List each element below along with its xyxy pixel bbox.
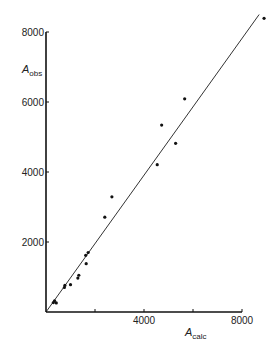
data-point — [174, 142, 177, 145]
y-tick-label: 4000 — [22, 167, 45, 178]
data-point — [63, 284, 66, 287]
y-axis-label: Aobs — [21, 63, 42, 78]
x-axis-label-subscript: calc — [192, 332, 206, 341]
data-point — [69, 283, 72, 286]
data-point — [262, 17, 265, 20]
data-point — [183, 97, 186, 100]
data-point — [76, 276, 79, 279]
data-point — [55, 301, 58, 304]
x-tick-label: 8000 — [231, 315, 254, 326]
data-points — [52, 17, 266, 305]
y-tick-label: 6000 — [22, 97, 45, 108]
data-point — [156, 163, 159, 166]
scatter-chart: 200040006000800040008000AobsAcalc — [0, 0, 274, 342]
data-point — [87, 251, 90, 254]
axes — [46, 32, 242, 312]
data-point — [77, 274, 80, 277]
y-tick-label: 8000 — [22, 27, 45, 38]
reference-line — [46, 15, 259, 313]
data-point — [85, 262, 88, 265]
data-point — [110, 195, 113, 198]
data-point — [84, 254, 87, 257]
x-tick-label: 4000 — [133, 315, 156, 326]
data-point — [103, 216, 106, 219]
y-tick-label: 2000 — [22, 237, 45, 248]
x-axis-label: Acalc — [184, 326, 207, 341]
data-point — [160, 124, 163, 127]
y-axis-label-subscript: obs — [29, 69, 42, 78]
reference-line-yx — [46, 15, 259, 313]
